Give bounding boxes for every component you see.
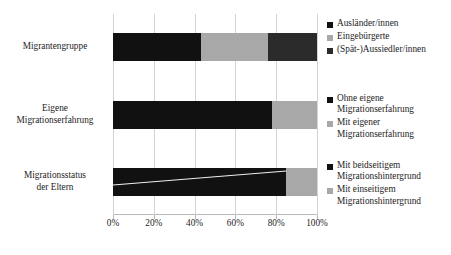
- legend-label-line: Migrationshintergrund: [337, 171, 421, 182]
- legend-item[interactable]: Mit beidseitigem Migrationshintergrund: [327, 160, 421, 182]
- bar-segment: [113, 168, 286, 196]
- legend-label-line: Mit beidseitigem: [337, 160, 421, 171]
- legend-item[interactable]: (Spät-)Aussiedler/innen: [327, 44, 426, 55]
- gridline: [317, 14, 318, 215]
- bar-segment: [272, 101, 317, 129]
- category-label-line: Migrantengruppe: [23, 41, 88, 51]
- legend-swatch-icon: [327, 188, 333, 194]
- legend-item[interactable]: Mit eigener Migrationserfahrung: [327, 117, 414, 139]
- legend-label-line: Mit einseitigem: [337, 184, 421, 195]
- legend-item[interactable]: Ohne eigene Migrationserfahrung: [327, 93, 414, 115]
- legend-label: Mit einseitigem Migrationshintergrund: [337, 184, 421, 206]
- bar-2: [113, 101, 317, 129]
- x-tick-label: 0%: [96, 218, 130, 228]
- legend-label: Mit beidseitigem Migrationshintergrund: [337, 160, 421, 182]
- category-label-line: der Eltern: [2, 182, 108, 194]
- bar-3: [113, 168, 317, 196]
- x-axis-line: [113, 214, 317, 215]
- legend-label-line: Migrationserfahrung: [337, 104, 414, 115]
- legend-item[interactable]: Eingebürgerte: [327, 31, 426, 42]
- legend-label: Mit eigener Migrationserfahrung: [337, 117, 414, 139]
- plot-area: [113, 14, 317, 215]
- legend-item[interactable]: Mit einseitigem Migrationshintergrund: [327, 184, 421, 206]
- category-label-line: Eigene: [2, 103, 108, 115]
- bar-segment: [113, 33, 201, 61]
- legend-label: Eingebürgerte: [337, 31, 390, 42]
- bar-segment: [268, 33, 317, 61]
- x-tick-label: 40%: [178, 218, 212, 228]
- bar-segment: [201, 33, 268, 61]
- bar-segment: [113, 101, 272, 129]
- x-tick-label: 100%: [300, 218, 334, 228]
- legend-label-line: Mit eigener: [337, 117, 414, 128]
- x-tick-label: 20%: [137, 218, 171, 228]
- category-label-migrantengruppe: Migrantengruppe: [2, 41, 108, 53]
- legend-label: (Spät-)Aussiedler/innen: [337, 44, 426, 55]
- category-label-migrationsstatus-der-eltern: Migrationsstatus der Eltern: [2, 170, 108, 193]
- category-label-line: Migrationserfahrung: [2, 115, 108, 127]
- legend-item[interactable]: Ausländer/innen: [327, 18, 426, 29]
- legend-label-line: Ohne eigene: [337, 93, 414, 104]
- legend-swatch-icon: [327, 97, 333, 103]
- legend-group-eigene-migrationserfahrung: Ohne eigene Migrationserfahrung Mit eige…: [327, 93, 414, 142]
- x-tick-label: 60%: [218, 218, 252, 228]
- stacked-bar-chart: Migrantengruppe Eigene Migrationserfahru…: [0, 0, 451, 255]
- bar-segment: [286, 168, 317, 196]
- legend-label: Ausländer/innen: [337, 18, 398, 29]
- legend-label-line: Migrationshintergrund: [337, 196, 421, 207]
- x-tick-label: 80%: [259, 218, 293, 228]
- legend-label-line: Migrationserfahrung: [337, 129, 414, 140]
- bar-1: [113, 33, 317, 61]
- legend-swatch-icon: [327, 48, 333, 54]
- category-label-line: Migrationsstatus: [2, 170, 108, 182]
- legend-swatch-icon: [327, 121, 333, 127]
- legend-label: Ohne eigene Migrationserfahrung: [337, 93, 414, 115]
- legend-swatch-icon: [327, 164, 333, 170]
- category-label-eigene-migrationserfahrung: Eigene Migrationserfahrung: [2, 103, 108, 126]
- legend-group-migrationsstatus-der-eltern: Mit beidseitigem Migrationshintergrund M…: [327, 160, 421, 209]
- legend-swatch-icon: [327, 22, 333, 28]
- legend-group-migrantengruppe: Ausländer/innen Eingebürgerte (Spät-)Aus…: [327, 18, 426, 58]
- legend-swatch-icon: [327, 35, 333, 41]
